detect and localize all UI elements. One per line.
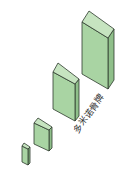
domino-block-2: [34, 118, 52, 151]
domino-block-1: [22, 143, 30, 165]
domino-block-3: [53, 63, 79, 121]
domino-side-face: [49, 127, 52, 151]
domino-side-face: [108, 29, 114, 89]
domino-diagram: [0, 0, 130, 176]
domino-block-4: [82, 11, 114, 89]
